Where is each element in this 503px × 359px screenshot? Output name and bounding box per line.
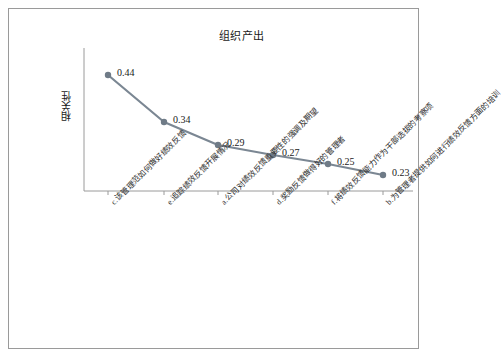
- data-value-label: 0.25: [337, 156, 355, 167]
- chart-frame: 组织产出 相关性 0.44 0.34 0.29: [8, 8, 419, 349]
- data-value-label: 0.29: [227, 137, 245, 148]
- data-value-label: 0.44: [117, 67, 135, 78]
- data-value-label: 0.27: [282, 147, 300, 158]
- data-point-marker: [215, 142, 221, 148]
- chart-canvas: [9, 9, 420, 350]
- data-value-label: 0.23: [392, 167, 410, 178]
- data-point-marker: [380, 172, 386, 178]
- data-point-marker: [161, 119, 167, 125]
- chart-plot-area: 组织产出 相关性 0.44 0.34 0.29: [9, 9, 418, 348]
- data-point-marker: [270, 152, 276, 158]
- data-point-marker: [325, 161, 331, 167]
- data-value-label: 0.34: [173, 114, 191, 125]
- data-point-marker: [105, 72, 111, 78]
